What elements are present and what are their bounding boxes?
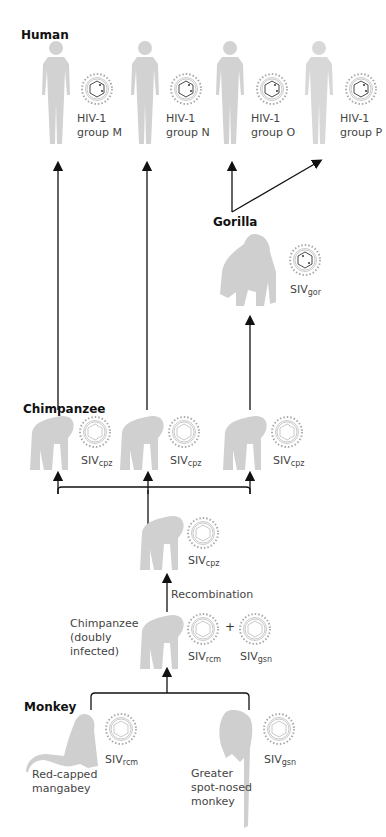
chimpanzee-silhouette-icon — [138, 613, 186, 671]
hiv-group-o-label: HIV-1group O — [251, 112, 295, 140]
hiv-group-n-label: HIV-1group N — [166, 112, 210, 140]
siv-rcm-label: SIVrcm — [105, 753, 138, 767]
recombination-label: Recombination — [171, 588, 253, 602]
red-capped-mangabey-label: Red-cappedmangabey — [32, 768, 97, 796]
siv-cpz-label: SIVcpz — [188, 554, 219, 568]
hiv-group-p-label: HIV-1group P — [340, 112, 382, 140]
siv-virus-icon — [186, 516, 220, 550]
label-gorilla: Gorilla — [213, 215, 257, 229]
chimpanzee-silhouette-icon — [138, 514, 186, 572]
siv-gor-label: SIVgor — [290, 283, 321, 297]
siv-virus-icon — [270, 415, 304, 449]
plus-sign: + — [225, 620, 235, 634]
siv-gsn-label: SIVgsn — [264, 753, 296, 767]
human-silhouette-icon — [38, 40, 74, 148]
hiv-virus-icon — [80, 72, 114, 106]
mangabey-silhouette-icon — [24, 712, 100, 774]
chimpanzee-silhouette-icon — [118, 414, 166, 472]
human-silhouette-icon — [127, 40, 163, 148]
siv-cpz-label: SIVcpz — [273, 454, 304, 468]
hiv-virus-icon — [255, 72, 289, 106]
gorilla-silhouette-icon — [218, 232, 282, 312]
siv-rcm-virus-icon — [186, 612, 220, 646]
doubly-infected-label: Chimpanzee(doublyinfected) — [70, 617, 138, 659]
human-silhouette-icon — [212, 40, 248, 148]
siv-gsn-label: SIVgsn — [240, 650, 272, 664]
siv-gsn-virus-icon — [262, 712, 296, 746]
siv-rcm-virus-icon — [104, 712, 138, 746]
siv-cpz-label: SIVcpz — [81, 454, 112, 468]
hiv-group-m-label: HIV-1group M — [77, 112, 122, 140]
human-silhouette-icon — [301, 40, 337, 148]
hiv-virus-icon — [169, 72, 203, 106]
siv-virus-icon — [78, 415, 112, 449]
hiv-virus-icon — [344, 72, 378, 106]
chimpanzee-silhouette-icon — [221, 414, 269, 472]
siv-virus-icon — [167, 415, 201, 449]
siv-rcm-label: SIVrcm — [188, 650, 221, 664]
siv-gsn-virus-icon — [238, 612, 272, 646]
spot-nosed-monkey-label: Greaterspot-nosedmonkey — [191, 767, 252, 809]
siv-cpz-label: SIVcpz — [170, 454, 201, 468]
siv-virus-icon — [288, 243, 322, 277]
chimpanzee-silhouette-icon — [28, 414, 76, 472]
